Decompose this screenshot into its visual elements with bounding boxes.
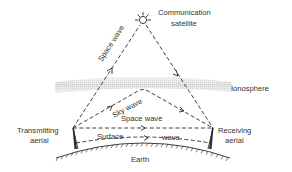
satellite-icon [135,12,151,24]
ionosphere-label: Ionosphere [231,84,269,93]
transmitter-antenna-icon [73,128,79,149]
space-wave-satellite-path [73,25,213,128]
space-wave-satellite-label: Space wave [96,23,126,63]
satellite-label-line1: Communication [158,8,211,17]
ionosphere-band [55,77,232,93]
transmitter-label-line1: Transmitting [17,126,59,135]
space-wave-direct-path [73,126,213,131]
propagation-diagram: Ionosphere Communication satellite Space… [0,0,292,172]
earth-label: Earth [131,155,149,164]
receiver-label-line1: Receiving [218,126,251,135]
receiver-label-line2: aerial [225,136,244,145]
receiver-antenna-icon [208,128,214,149]
space-wave-direct-label: Space wave [121,114,162,123]
transmitter-label-line2: aerial [30,136,49,145]
satellite-label-line2: satellite [171,19,197,28]
surface-wave-label-part2: wave [161,133,180,142]
surface-wave-label-part1: Surface [97,132,123,141]
